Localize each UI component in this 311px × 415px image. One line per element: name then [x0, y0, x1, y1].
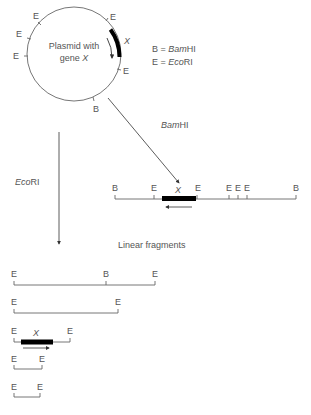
site-label-e: E [11, 326, 17, 336]
ecori-digest: EcoRI Linear fragments E B E E E [11, 132, 186, 397]
ecori-site-tick [27, 38, 31, 39]
fragments-caption: Linear fragments [118, 240, 186, 250]
site-label-e: E [226, 183, 232, 193]
ecori-fragment-4: E E [11, 354, 45, 369]
bamhi-digest-arrow [108, 98, 179, 183]
site-label-e: E [151, 183, 157, 193]
site-label-e: E [115, 297, 121, 307]
site-label-e: E [11, 269, 17, 279]
ecori-fragment-3: E X E [11, 326, 73, 348]
site-label-e: E [244, 183, 250, 193]
ecori-fragment-2: E E [11, 297, 121, 313]
bamhi-label: BamHI [161, 120, 189, 130]
site-label-e: E [11, 382, 17, 392]
restriction-map-diagram: E E E E E B X Plasmid with gene X B = Ba… [0, 0, 311, 415]
gene-x-label: X [123, 36, 131, 46]
bamhi-linear-fragment: B E X E E E E B [112, 183, 299, 207]
ecori-site-tick [117, 69, 121, 70]
site-label-e: E [195, 183, 201, 193]
gene-x-label: X [174, 185, 182, 195]
plasmid: E E E E E B X Plasmid with gene X [13, 7, 131, 114]
site-label-e: E [11, 297, 17, 307]
site-label-e: E [16, 29, 22, 39]
bamhi-digest: BamHI B E X E E E E B [108, 98, 299, 207]
site-label-e: E [39, 354, 45, 364]
site-label-e: E [37, 382, 43, 392]
site-label-b: B [103, 269, 109, 279]
ecori-label: EcoRI [15, 177, 40, 187]
legend: B = BamHI E = EcoRI [152, 44, 196, 67]
legend-bamhi: B = BamHI [152, 44, 196, 54]
gene-x-segment [21, 340, 53, 345]
ecori-fragment-1: E B E [11, 269, 158, 285]
legend-ecori: E = EcoRI [152, 57, 193, 67]
site-label-e: E [123, 66, 129, 76]
gene-x-segment [162, 196, 196, 201]
site-label-b: B [112, 183, 118, 193]
site-label-e: E [33, 11, 39, 21]
bamhi-site-tick [93, 97, 94, 101]
gene-direction-arrow [107, 38, 112, 58]
plasmid-subtitle: gene X [60, 53, 90, 63]
site-label-e: E [110, 12, 116, 22]
site-label-e: E [235, 183, 241, 193]
site-label-e: E [152, 269, 158, 279]
plasmid-title: Plasmid with [49, 41, 100, 51]
site-label-b: B [93, 104, 99, 114]
gene-x-label: X [32, 328, 40, 338]
site-label-e: E [11, 354, 17, 364]
site-label-b: B [293, 183, 299, 193]
ecori-fragment-5: E E [11, 382, 43, 397]
site-label-e: E [13, 51, 19, 61]
site-label-e: E [67, 326, 73, 336]
